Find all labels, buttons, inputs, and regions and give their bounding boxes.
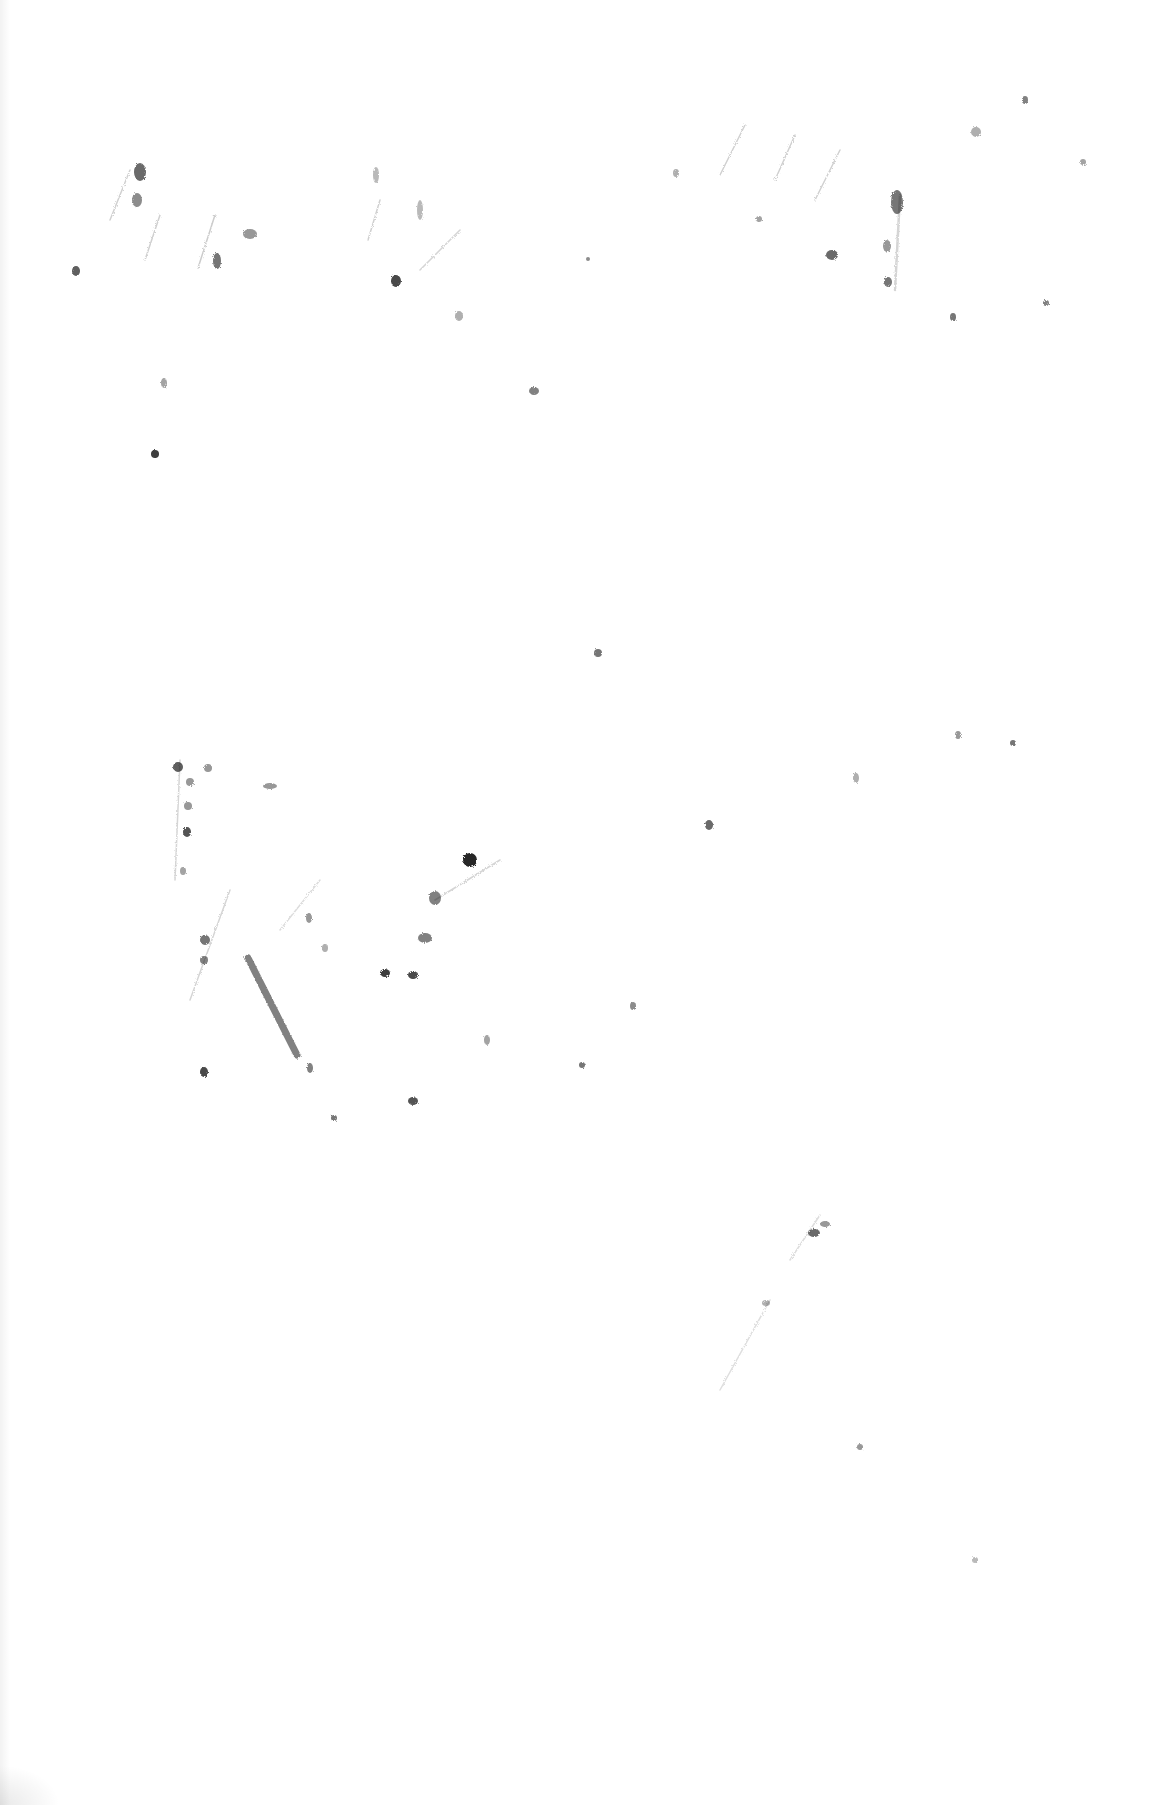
graphite-smudge — [322, 944, 328, 952]
graphite-smudge — [408, 1097, 418, 1105]
faint-stroke — [775, 135, 795, 180]
graphite-smudge — [161, 378, 167, 388]
graphite-smudge — [529, 387, 539, 395]
graphite-smudge — [429, 891, 441, 905]
graphite-smudge — [306, 913, 312, 923]
faint-stroke — [720, 125, 745, 175]
faint-stroke — [280, 880, 320, 930]
graphite-smudge — [183, 827, 191, 837]
graphite-smudge — [263, 783, 277, 789]
graphite-smudge — [307, 1063, 313, 1073]
faint-stroke — [145, 215, 160, 260]
graphite-smudge — [857, 1444, 863, 1450]
graphite-smudge — [1010, 740, 1016, 746]
scanned-paper-sheet: Scanned sheet of paper, mostly blank, wi… — [0, 0, 1173, 1805]
graphite-smudge — [756, 216, 762, 222]
graphite-smudge — [184, 802, 192, 810]
faint-stroke — [198, 215, 215, 268]
graphite-smudge — [1022, 96, 1028, 104]
faint-stroke — [248, 958, 297, 1055]
faint-stroke — [190, 890, 230, 1000]
pencil-smudge-layer — [0, 0, 1173, 1805]
graphite-smudge — [132, 193, 142, 207]
graphite-smudge — [417, 200, 423, 220]
graphite-smudge — [972, 1557, 978, 1563]
graphite-smudge — [594, 649, 602, 657]
graphite-smudge — [950, 313, 956, 321]
graphite-smudge — [213, 253, 221, 269]
faint-stroke — [720, 1300, 770, 1390]
graphite-smudge — [484, 1035, 490, 1045]
graphite-smudge — [200, 956, 208, 964]
graphite-smudge — [884, 277, 892, 287]
graphite-smudge — [955, 731, 961, 739]
graphite-smudge — [630, 1002, 636, 1010]
graphite-smudge — [380, 969, 390, 977]
graphite-smudge — [200, 1067, 208, 1077]
graphite-smudge — [1080, 159, 1086, 165]
graphite-smudge — [186, 778, 194, 786]
graphite-smudge — [971, 127, 981, 137]
graphite-smudge — [853, 773, 859, 783]
graphite-smudge — [373, 167, 379, 183]
faint-stroke — [420, 230, 460, 270]
graphite-smudge — [826, 250, 838, 260]
graphite-smudge — [705, 820, 713, 830]
graphite-smudge — [762, 1300, 770, 1306]
graphite-smudge — [331, 1115, 337, 1121]
faint-handwriting-strokes — [110, 125, 900, 1390]
graphite-smudge — [883, 240, 891, 252]
faint-stroke — [790, 1215, 820, 1260]
faint-stroke — [175, 760, 180, 880]
graphite-smudge — [151, 450, 159, 458]
faint-stroke — [815, 150, 840, 200]
faint-stroke — [110, 170, 130, 220]
graphite-smudge — [673, 169, 679, 177]
graphite-smudge — [820, 1221, 830, 1227]
faint-stroke — [368, 200, 380, 240]
graphite-smudge — [391, 275, 401, 287]
graphite-smudge — [1043, 300, 1049, 306]
graphite-smudge — [408, 971, 418, 979]
graphite-smudge — [463, 853, 477, 867]
graphite-smudge — [808, 1229, 820, 1237]
graphite-smudge — [455, 311, 463, 321]
graphite-smudge — [173, 762, 183, 772]
graphite-smudge — [180, 867, 186, 875]
graphite-smudges — [72, 96, 1086, 1563]
graphite-smudge — [204, 764, 212, 772]
graphite-smudge — [418, 933, 432, 943]
graphite-smudge — [200, 935, 210, 945]
graphite-smudge — [586, 257, 590, 261]
graphite-smudge — [134, 163, 146, 181]
graphite-smudge — [579, 1062, 585, 1068]
graphite-smudge — [72, 266, 80, 276]
graphite-smudge — [891, 190, 903, 214]
graphite-smudge — [243, 229, 257, 239]
